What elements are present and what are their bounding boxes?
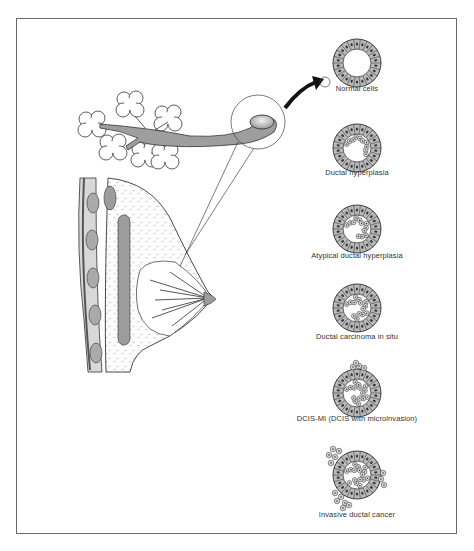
duct-illustration xyxy=(100,115,277,150)
arrow-icon xyxy=(285,76,330,108)
cell-ring-hyperplasia xyxy=(333,124,381,172)
cell-ring-normal xyxy=(333,39,381,87)
stage-label-2: Atypical ductal hyperplasia xyxy=(311,251,403,260)
stage-label-3: Ductal carcinoma in situ xyxy=(316,332,398,341)
cell-ring-dcis-mi xyxy=(333,360,381,417)
stage-label-5: Invasive ductal cancer xyxy=(319,510,395,519)
cell-ring-invasive xyxy=(326,446,387,511)
breast-cross-section xyxy=(79,178,216,372)
stage-label-0: Normal cells xyxy=(336,84,378,93)
stage-label-4: DCIS-MI (DCIS with microinvasion) xyxy=(297,414,417,423)
stage-label-1: Ductal hyperplasia xyxy=(325,168,389,177)
diagram-canvas xyxy=(0,0,474,551)
cell-ring-atypical xyxy=(333,205,381,253)
cell-ring-dcis xyxy=(333,284,381,332)
cell-stage-illustrations xyxy=(326,39,387,511)
